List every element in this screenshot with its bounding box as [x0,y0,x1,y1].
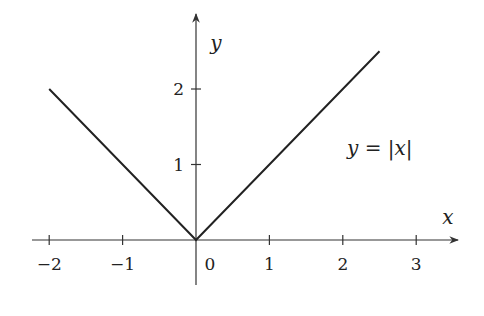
x-tick-label: 1 [264,254,275,274]
y-tick-label: 1 [173,155,184,175]
y-ticks: 12 [173,79,201,175]
x-tick-label: 3 [411,254,422,274]
abs-function-line [49,51,379,240]
x-axis-label: x [442,205,453,229]
y-axis-label: y [209,31,222,55]
chart-plot: −2−10123 12 x y y = |x| [0,0,484,316]
y-tick-label: 2 [173,79,184,99]
x-tick-label: −2 [37,254,62,274]
function-annotation: y = |x| [346,136,413,161]
x-tick-label: 2 [337,254,348,274]
x-tick-label: −1 [110,254,135,274]
x-ticks: −2−10123 [37,235,422,274]
x-tick-label: 0 [205,254,216,274]
